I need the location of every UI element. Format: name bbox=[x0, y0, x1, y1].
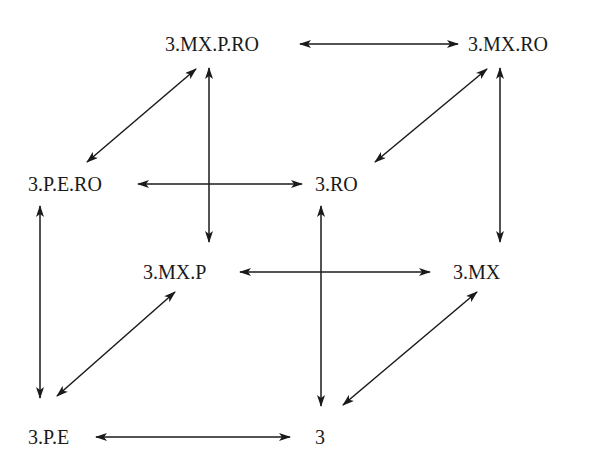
node-3-mx: 3.MX bbox=[453, 260, 500, 284]
node-3-mx-ro: 3.MX.RO bbox=[468, 32, 548, 56]
arrow-3-mx-p-to-3-p-e bbox=[57, 292, 175, 396]
edge-layer bbox=[0, 0, 593, 466]
node-3-mx-p-ro: 3.MX.P.RO bbox=[165, 32, 259, 56]
arrow-3-mx-ro-to-3-ro bbox=[375, 69, 487, 162]
node-3: 3 bbox=[315, 425, 325, 449]
arrow-3-mx-p-ro-to-3-p-e-ro bbox=[87, 69, 196, 162]
node-3-ro: 3.RO bbox=[315, 172, 358, 196]
node-3-mx-p: 3.MX.P bbox=[143, 260, 206, 284]
arrow-3-mx-to-3 bbox=[343, 292, 477, 405]
node-3-p-e: 3.P.E bbox=[28, 425, 69, 449]
node-3-p-e-ro: 3.P.E.RO bbox=[28, 172, 102, 196]
